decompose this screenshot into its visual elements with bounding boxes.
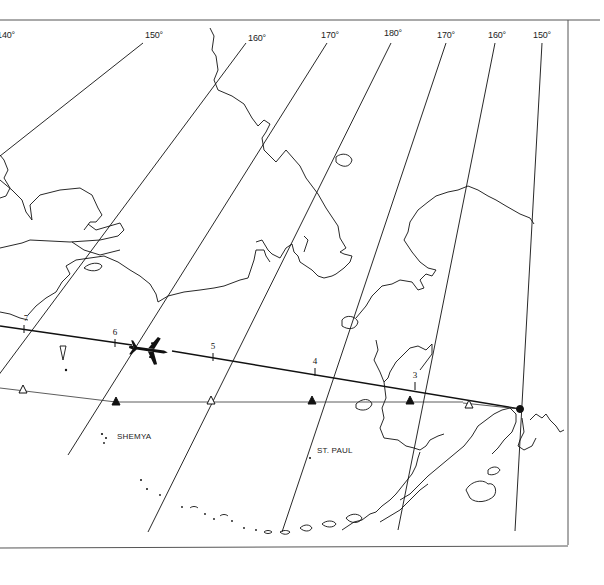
hollow-triangle-icon [19, 385, 27, 393]
route-tick-label-3: 3 [413, 370, 418, 380]
map-border [0, 20, 600, 548]
island-dots [65, 369, 311, 531]
meridian-label-180: 180° [384, 28, 402, 38]
meridian-label-150: 150° [145, 30, 163, 40]
meridian-label-160: 160° [248, 33, 266, 43]
meridian-label-150-east: 150° [533, 30, 551, 40]
route-tick-label-6: 6 [113, 327, 118, 337]
airplane-icon [127, 333, 170, 366]
destination-dot-icon [517, 406, 524, 413]
place-label-shemya: SHEMYA [117, 432, 151, 441]
meridian-label-170-east: 170° [437, 30, 455, 40]
meridian-lines [0, 43, 542, 532]
meridian-label-170-west: 170° [321, 30, 339, 40]
meridian-label-160-east: 160° [488, 30, 506, 40]
island-marker [60, 346, 66, 360]
waypoints [19, 385, 524, 413]
route-tick-label-7: 7 [24, 313, 29, 323]
track-line [0, 388, 520, 409]
place-label-st-paul: ST. PAUL [317, 446, 353, 455]
coastlines [0, 28, 564, 534]
flight-route-map: 140° 150° 160° 170° 180° 170° 160° 150° … [0, 0, 604, 585]
filled-triangle-icon [308, 396, 316, 404]
filled-triangle-icon [112, 397, 120, 405]
route-tick-label-5: 5 [211, 341, 216, 351]
meridian-label-140: 140° [0, 30, 15, 40]
route-tick-label-4: 4 [313, 356, 318, 366]
filled-triangle-icon [406, 396, 414, 404]
map-drawing [0, 0, 604, 585]
route-ticks [24, 325, 415, 390]
great-circle-route [0, 326, 520, 409]
